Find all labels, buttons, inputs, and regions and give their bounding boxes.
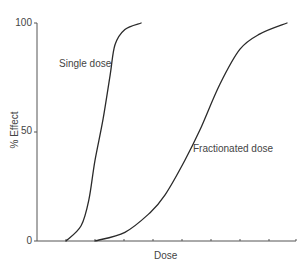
y-tick-label-0: 0 bbox=[8, 236, 32, 246]
axes bbox=[34, 23, 296, 241]
x-axis-label: Dose bbox=[154, 251, 177, 261]
fractionated-dose-curve bbox=[95, 23, 287, 241]
series-lines bbox=[66, 23, 287, 241]
single-dose-annotation: Single dose bbox=[59, 59, 111, 69]
y-axis-label: % Effect bbox=[10, 108, 20, 152]
y-tick-label-100: 100 bbox=[8, 18, 32, 28]
fractionated-dose-annotation: Fractionated dose bbox=[193, 144, 273, 154]
single-dose-curve bbox=[66, 23, 141, 241]
dose-effect-chart bbox=[0, 0, 308, 273]
